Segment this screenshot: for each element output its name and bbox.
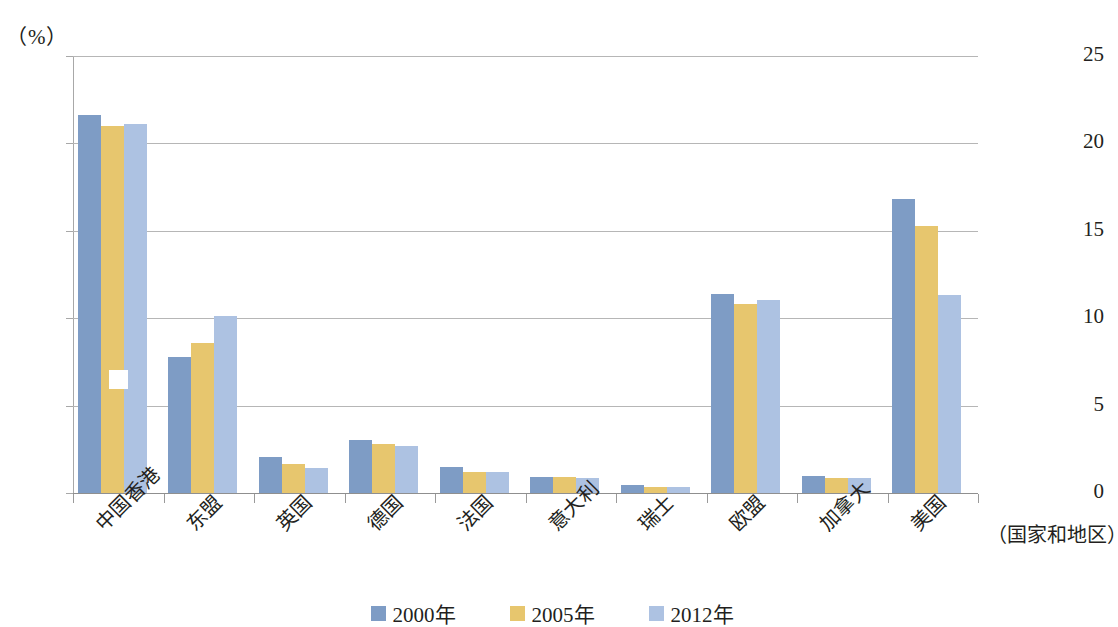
x-tick-mark [435,494,436,503]
x-axis-title: （国家和地区） [987,519,1118,548]
bar [915,226,938,493]
y-tick-label: 0 [1052,479,1104,504]
legend-item[interactable]: 2000年 [371,598,456,627]
legend-item[interactable]: 2005年 [510,598,595,627]
legend-swatch-icon [371,606,386,621]
category-label: 英国 [269,488,318,537]
bar [530,477,553,493]
y-tick-label: 5 [1052,392,1104,417]
bar [282,464,305,493]
legend-swatch-icon [510,606,525,621]
bar [259,457,282,493]
bar [78,115,101,493]
bar [214,316,237,493]
legend-label: 2005年 [532,598,595,627]
y-tick-label: 15 [1052,217,1104,242]
y-tick-label: 20 [1052,129,1104,154]
category-label: 欧盟 [722,488,771,537]
bar [667,487,690,493]
unit-label: （%） [6,20,69,50]
chart-legend: 2000年2005年2012年 [0,598,1104,627]
bar [395,446,418,493]
bar-group [711,56,780,493]
category-label: 美国 [903,488,952,537]
y-tick-mark [66,318,73,319]
bar-group [78,56,147,493]
bar [440,467,463,493]
category-label: 德国 [360,488,409,537]
bar-group [349,56,418,493]
x-tick-mark [707,494,708,503]
legend-item[interactable]: 2012年 [649,598,734,627]
bar-group [802,56,871,493]
legend-label: 2012年 [671,598,734,627]
bar-group [440,56,509,493]
bar-group [530,56,599,493]
legend-swatch-icon [649,606,664,621]
bar [372,444,395,493]
bar [124,124,147,493]
x-tick-mark [888,494,889,503]
bar [486,472,509,493]
bar [938,295,961,493]
bar [191,343,214,493]
bar [734,304,757,493]
bar-group [621,56,690,493]
bar-group [259,56,328,493]
bar [168,357,191,493]
bar [305,468,328,493]
x-tick-mark [254,494,255,503]
x-tick-mark [616,494,617,503]
y-tick-mark [66,493,73,494]
bar [349,440,372,493]
y-tick-mark [66,56,73,57]
bar-group [892,56,961,493]
x-tick-mark [978,494,979,503]
category-label: 东盟 [179,488,228,537]
y-tick-mark [66,231,73,232]
y-tick-mark [66,406,73,407]
bar-group [168,56,237,493]
scan-artifact [109,370,128,389]
x-tick-mark [345,494,346,503]
bar [711,294,734,493]
bar [101,126,124,493]
category-label: 法国 [450,488,499,537]
x-tick-mark [164,494,165,503]
y-tick-label: 10 [1052,304,1104,329]
bar [757,300,780,493]
category-label: 瑞士 [631,488,680,537]
x-tick-mark [526,494,527,503]
legend-label: 2000年 [393,598,456,627]
x-tick-mark [73,494,74,503]
y-tick-label: 25 [1052,42,1104,67]
y-axis-line [73,56,74,493]
bar [802,476,825,493]
bar [621,485,644,493]
bar [892,199,915,493]
x-tick-mark [797,494,798,503]
y-tick-mark [66,143,73,144]
